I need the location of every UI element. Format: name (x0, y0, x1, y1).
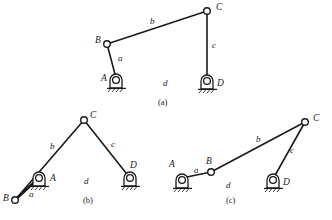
joint-c-c (302, 119, 309, 126)
link-label-d-c: d (226, 180, 231, 190)
link-a-a (107, 44, 116, 78)
support-d-a (198, 75, 217, 93)
joint-label-a-c: A (168, 159, 175, 169)
joint-b-b (12, 197, 19, 204)
joint-b-a (104, 41, 111, 48)
joint-label-d-a: D (216, 78, 224, 88)
joint-c-b (81, 117, 88, 124)
joint-label-a-b: A (49, 173, 56, 183)
link-label-b-b: b (50, 141, 55, 151)
link-c-b (84, 120, 130, 178)
link-b-b (15, 120, 84, 200)
link-label-d-b: d (84, 176, 89, 186)
joint-label-d-c: D (282, 177, 290, 187)
link-label-c-c: c (290, 145, 294, 155)
link-label-b-a: b (150, 16, 155, 26)
joint-label-a-a: A (100, 73, 107, 83)
link-label-a-a: a (118, 53, 123, 63)
support-d-c (264, 174, 283, 192)
link-label-c-b: c (111, 139, 115, 149)
support-a-a (107, 74, 126, 92)
link-label-d-a: d (163, 78, 168, 88)
joint-label-b-c: B (206, 156, 212, 166)
support-a-b (30, 172, 49, 190)
joint-label-c-b: C (90, 110, 97, 120)
joint-label-b-b: B (3, 193, 9, 203)
diagram-a: B C A D a b c d (a) (95, 2, 224, 107)
joint-label-c-a: C (216, 2, 223, 12)
support-d-b (121, 172, 140, 190)
linkage-svg: B C A D a b c d (a) (0, 0, 332, 220)
joint-b-c (208, 169, 215, 176)
joint-c-a (204, 8, 211, 15)
link-label-c-a: c (212, 40, 216, 50)
link-label-a-b: a (29, 189, 34, 199)
joint-label-d-b: D (129, 160, 137, 170)
caption-c: (c) (226, 195, 236, 205)
caption-b: (b) (83, 195, 93, 205)
diagram-b: C B A D a b c d (b) (3, 110, 140, 205)
linkage-figure: B C A D a b c d (a) (0, 0, 332, 220)
diagram-c: B C A D a b c d (c) (168, 113, 320, 205)
caption-a: (a) (158, 97, 168, 107)
link-label-b-c: b (256, 134, 261, 144)
link-label-a-c: a (194, 165, 199, 175)
joint-label-b-a: B (95, 35, 101, 45)
joint-label-c-c: C (313, 113, 320, 123)
link-b-a (107, 11, 207, 44)
